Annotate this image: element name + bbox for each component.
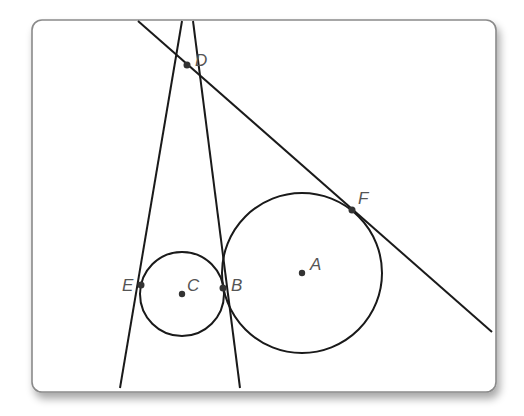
figure-frame: [32, 20, 496, 392]
label-A: A: [309, 255, 321, 274]
label-E: E: [122, 276, 134, 295]
label-D: D: [195, 51, 207, 70]
point-A: [299, 270, 305, 276]
geometry-figure: D E C B A F: [0, 0, 524, 416]
label-B: B: [231, 276, 242, 295]
label-C: C: [187, 276, 200, 295]
point-E: [138, 282, 145, 289]
point-F: [349, 207, 356, 214]
label-F: F: [358, 189, 370, 208]
point-D: [184, 62, 191, 69]
point-C: [179, 291, 185, 297]
point-B: [220, 285, 227, 292]
